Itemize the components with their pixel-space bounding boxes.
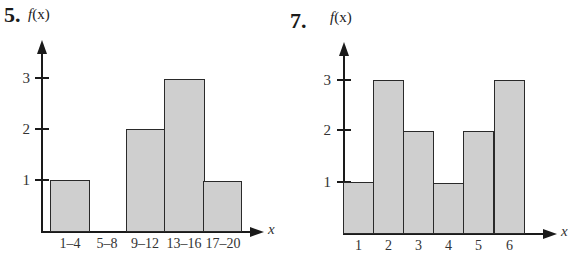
x-axis-label: x [561,223,568,240]
y-tick-label: 3 [16,70,30,87]
x-tick-label: 1–4 [52,236,88,252]
x-tick-label: 13–16 [164,236,204,252]
y-tick-label: 1 [16,172,30,189]
x-tick-label: 4 [433,238,464,254]
bar-4 [433,183,464,234]
x-tick-label: 17–20 [203,236,243,252]
bar-9-12 [126,129,165,232]
bar-3 [403,131,434,234]
bar-13-16 [164,79,205,232]
y-axis-label: f(x) [28,6,50,23]
y-axis-label: f(x) [330,9,352,26]
bar-2 [373,80,404,234]
x-axis-arrow-icon [250,227,264,237]
x-tick-label: 1 [343,238,374,254]
bar-6 [494,80,525,234]
x-axis-arrow-icon [543,229,557,239]
bar-1-4 [50,180,90,232]
x-tick-label: 3 [403,238,434,254]
y-tick [35,179,49,181]
y-tick [35,128,49,130]
y-tick-label: 2 [16,121,30,138]
y-tick-label: 3 [317,72,331,89]
y-tick [337,129,351,131]
x-tick-label: 5 [463,238,494,254]
y-tick [35,77,49,79]
x-axis-label: x [268,221,275,238]
problem-number: 5. [4,2,21,28]
y-tick-label: 1 [317,174,331,191]
x-tick-label: 2 [373,238,404,254]
problem-number: 7. [290,8,307,34]
y-tick-label: 2 [317,122,331,139]
x-tick-label: 5–8 [89,236,125,252]
bar-17-20 [203,181,242,232]
bar-5 [463,131,494,234]
x-tick-label: 9–12 [126,236,164,252]
bar-1 [343,182,374,234]
y-tick [337,79,351,81]
x-tick-label: 6 [494,238,525,254]
